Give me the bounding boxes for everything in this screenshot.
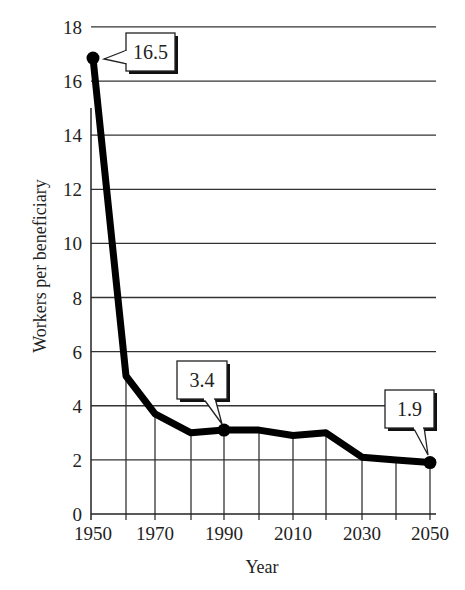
y-tick-label: 12 [63,179,82,200]
x-axis-title: Year [245,557,278,577]
y-tick-label: 18 [63,17,82,38]
y-axis-title: Workers per beneficiary [30,179,50,352]
x-tick-labels: 195019701990201020302050 [74,523,449,544]
callout-1990: 3.4 [177,361,230,424]
y-tick-label: 16 [63,71,82,92]
y-tick-label: 4 [73,396,83,417]
x-tick-label: 2030 [343,523,381,544]
callout-label: 3.4 [190,369,215,391]
y-tick-labels: 024681012141618 [63,17,83,525]
y-tick-label: 14 [63,125,83,146]
data-series-line [87,52,437,470]
callout-2050: 1.9 [385,390,437,455]
x-tick-label: 1970 [136,523,174,544]
x-tick-label: 1950 [74,523,112,544]
data-point-marker-1950 [87,52,100,65]
y-tick-label: 10 [63,233,82,254]
line-chart: 024681012141618 195019701990201020302050… [0,0,465,590]
series-line [93,58,430,463]
data-point-marker-1990 [218,424,231,437]
y-tick-label: 8 [73,288,83,309]
y-tick-label: 6 [73,342,83,363]
callout-label: 16.5 [133,41,168,63]
x-tick-label: 1990 [205,523,243,544]
y-tick-label: 2 [73,450,83,471]
callout-1950: 16.5 [104,33,178,74]
x-tick-label: 2050 [411,523,449,544]
y-tick-label: 0 [73,504,83,525]
callout-label: 1.9 [397,398,422,420]
x-tick-label: 2010 [274,523,312,544]
data-point-marker-2050 [424,456,437,469]
